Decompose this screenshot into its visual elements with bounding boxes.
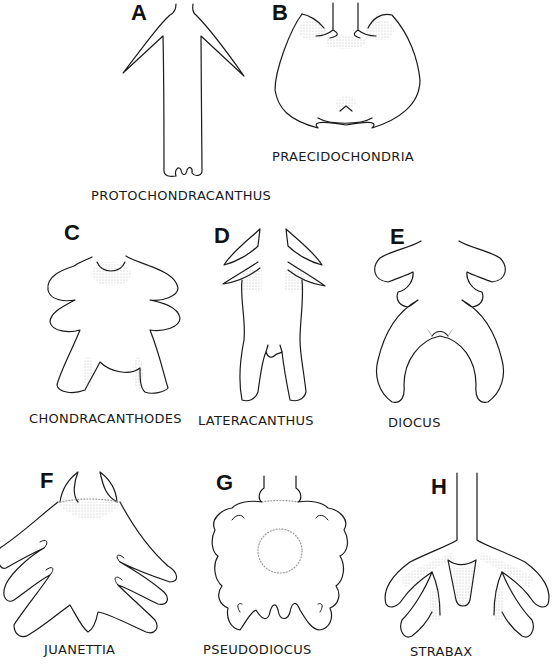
panel-f-letter: F bbox=[40, 470, 53, 492]
panel-g-drawing bbox=[212, 476, 347, 630]
panel-a-drawing bbox=[123, 4, 244, 176]
panel-c-name: CHONDRACANTHODES bbox=[29, 412, 182, 425]
panel-c-drawing bbox=[48, 256, 180, 393]
panel-b-drawing bbox=[275, 3, 420, 128]
panel-a-name: PROTOCHONDRACANTHUS bbox=[91, 189, 271, 202]
panel-d-letter: D bbox=[214, 225, 230, 247]
panel-g-name: PSEUDODIOCUS bbox=[203, 643, 312, 656]
panel-h-letter: H bbox=[431, 476, 447, 498]
panel-f-drawing bbox=[0, 472, 177, 637]
panel-d-name: LATERACANTHUS bbox=[198, 414, 314, 427]
panel-e-name: DIOCUS bbox=[388, 416, 441, 429]
panel-f-name: JUANETTIA bbox=[44, 643, 115, 656]
panel-g-letter: G bbox=[216, 472, 233, 494]
panel-a-letter: A bbox=[131, 2, 147, 24]
panel-b-name: PRAECIDOCHONDRIA bbox=[272, 150, 414, 163]
panel-c-letter: C bbox=[64, 222, 80, 244]
panel-e-letter: E bbox=[390, 226, 405, 248]
panel-d-drawing bbox=[223, 229, 325, 401]
figure-drawings bbox=[0, 0, 559, 672]
panel-h-drawing bbox=[385, 473, 549, 637]
panel-b-letter: B bbox=[272, 2, 288, 24]
panel-h-name: STRABAX bbox=[410, 645, 472, 658]
panel-e-drawing bbox=[375, 241, 506, 402]
figure-caption-truncated bbox=[78, 664, 278, 672]
